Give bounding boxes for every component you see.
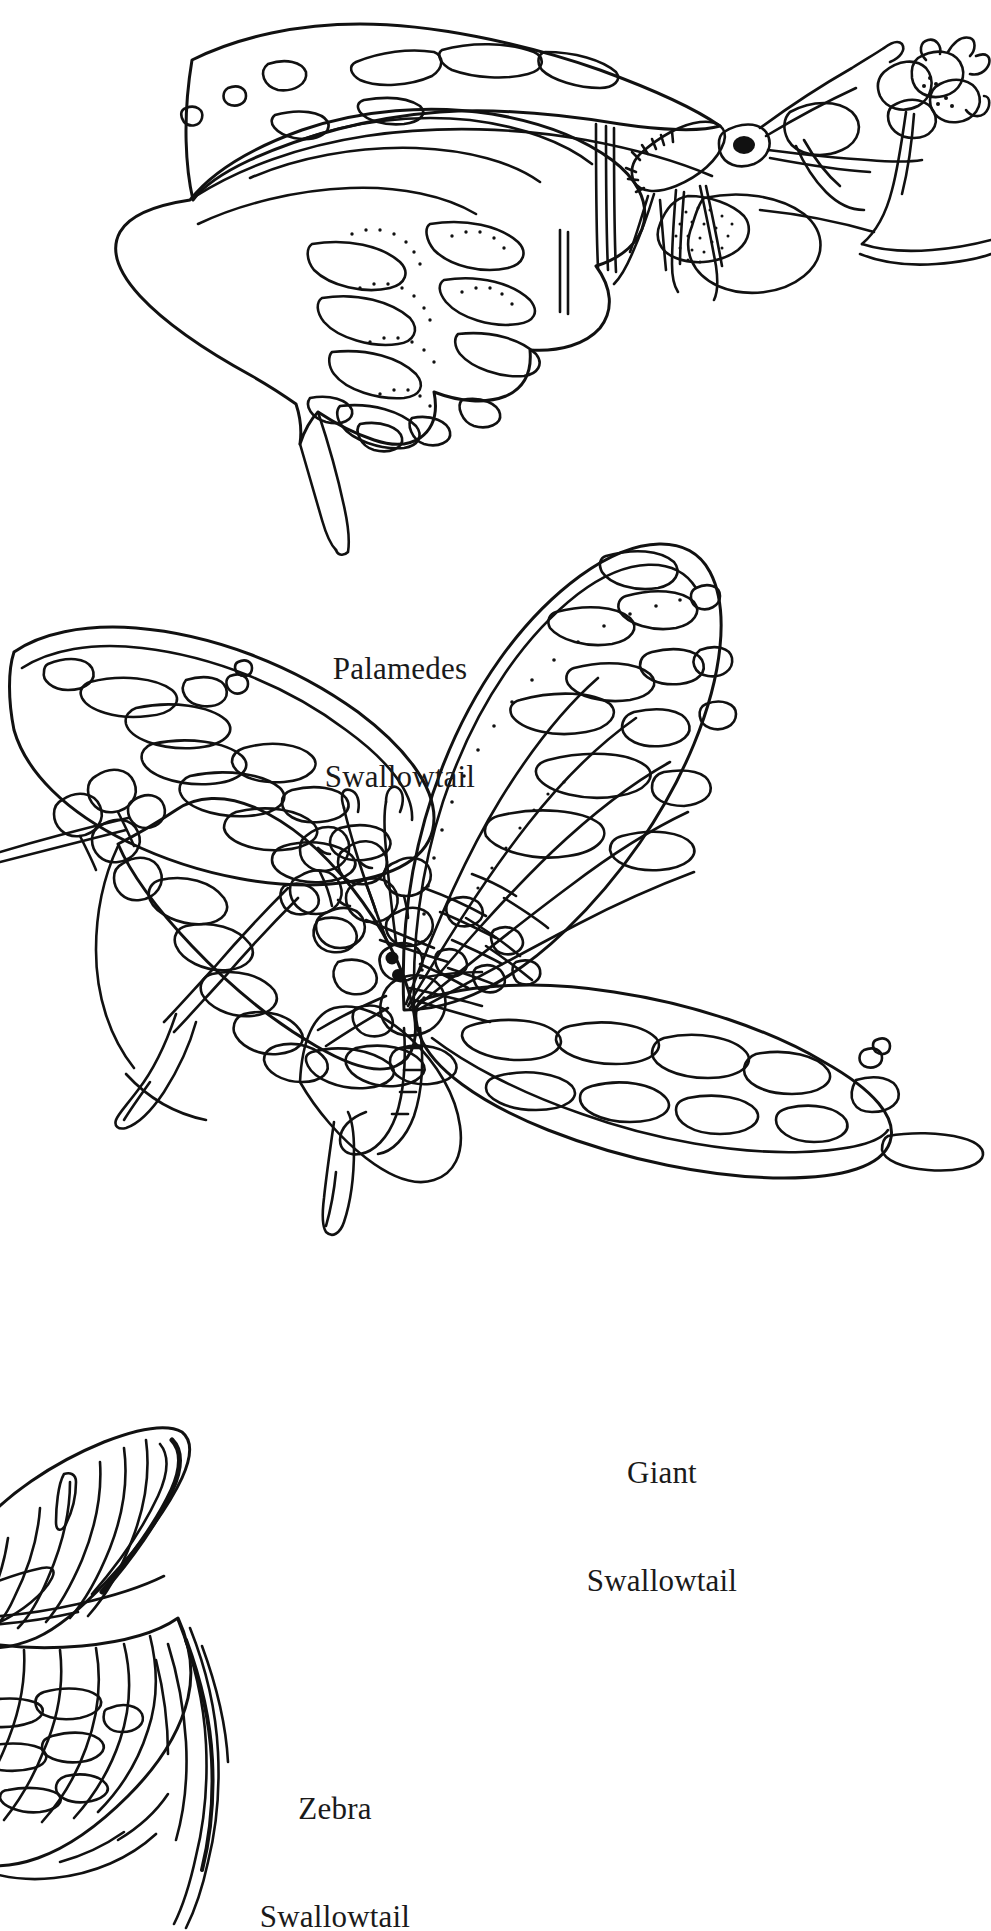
stipple-pattern	[350, 228, 513, 407]
eye	[386, 952, 399, 965]
eye	[733, 136, 755, 154]
caption-giant-line-2: Swallowtail	[512, 1563, 812, 1599]
figure-palamedes-swallowtail	[116, 24, 991, 555]
caption-palamedes-swallowtail: Palamedes Swallowtail	[255, 578, 545, 868]
butterfly-plate-illustration	[0, 0, 991, 1931]
caption-zebra-swallowtail: Zebra Swallowtail	[190, 1718, 480, 1931]
caption-palamedes-line-1: Palamedes	[255, 651, 545, 687]
caption-zebra-line-1: Zebra	[190, 1791, 480, 1827]
caption-giant-line-1: Giant	[512, 1455, 812, 1491]
caption-giant-swallowtail: Giant Swallowtail	[512, 1382, 812, 1672]
caption-palamedes-line-2: Swallowtail	[255, 759, 545, 795]
flower-cluster-palamedes	[784, 38, 989, 244]
eye	[392, 969, 404, 981]
coloring-page: Palamedes Swallowtail Giant Swallowtail …	[0, 0, 991, 1931]
caption-zebra-line-2: Swallowtail	[190, 1899, 480, 1931]
